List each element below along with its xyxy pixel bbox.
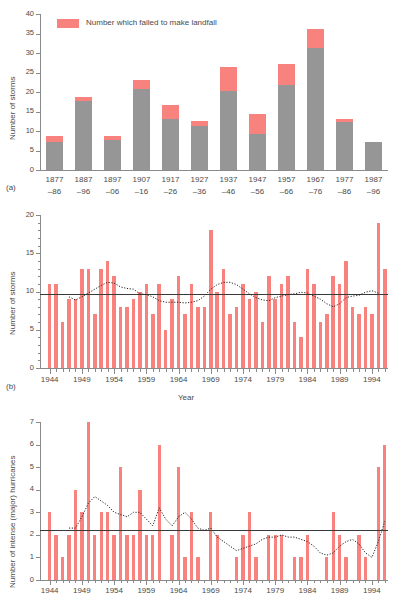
x-tick-label-line2: –86 [329,187,361,196]
x-tick-label-1949: 1949 [66,586,98,595]
y-tick-minor [38,246,40,247]
x-tick-label-1979: 1979 [259,586,291,595]
bar-year-1968 [203,307,207,368]
x-tick-year-1968 [204,580,205,583]
bar-year-1964 [177,276,181,368]
y-axis-line [40,215,41,368]
bar-year-1959 [145,284,149,368]
x-tick-year-1995 [378,580,379,583]
x-tick-year-1947 [69,368,70,372]
bar-decade-1887-96 [75,97,92,170]
x-tick-year-1996 [385,580,386,583]
bar-year-1984 [306,269,310,368]
x-tick-label-1959: 1959 [130,586,162,595]
x-tick-label-1989: 1989 [324,586,356,595]
x-tick-year-1987 [327,580,328,583]
x-tick-year-1988 [333,580,334,583]
legend-label-failed-landfall: Number which failed to make landfall [86,18,217,27]
x-tick-year-1987 [327,368,328,372]
y-tick-major [36,557,40,558]
x-tick-label-line1: 1877 [39,175,71,184]
x-tick-year-1960 [153,368,154,372]
x-tick-label-line2: –16 [126,187,158,196]
bar-year-1983 [299,557,302,580]
x-tick-label-1969: 1969 [195,586,227,595]
y-axis-line [40,422,41,580]
bar-year-1969 [209,230,213,368]
y-tick-label: 25 [6,67,34,76]
x-tick-label-line2: –96 [68,187,100,196]
bar-year-1989 [338,535,341,580]
bar-year-1954 [112,535,115,580]
x-tick-label-1994: 1994 [356,375,388,384]
bar-year-1989 [338,284,342,368]
mean-line [40,530,388,531]
x-tick-label-1994: 1994 [356,586,388,595]
y-tick-label: 0 [6,165,34,174]
y-tick-label: 0 [6,575,34,584]
x-tick-year-1990 [346,368,347,372]
y-tick-minor [38,261,40,262]
x-tick-year-1956 [127,580,128,583]
x-tick-label-1979: 1979 [259,375,291,384]
x-tick-year-1972 [230,368,231,372]
x-tick-year-1946 [63,580,64,583]
bar-year-1948 [74,490,77,580]
y-tick-major [36,112,40,113]
y-tick-major [36,445,40,446]
x-tick-label-line1: 1907 [126,175,158,184]
x-tick-major-1949 [82,368,83,374]
legend-swatch-failed-landfall [57,19,79,28]
bar-year-1969 [209,512,212,580]
x-tick-year-1988 [333,368,334,372]
y-tick-major [36,467,40,468]
panel-b-tag: (b) [6,382,16,391]
y-tick-major [36,151,40,152]
bar-year-1946 [61,322,65,368]
x-axis-line [40,170,388,171]
bar-year-1980 [280,535,283,580]
y-tick-major [36,253,40,254]
bar-year-1955 [119,467,122,580]
x-tick-major-1989 [340,580,341,585]
x-axis-line [40,580,388,581]
x-tick-year-1975 [249,368,250,372]
x-tick-year-1947 [69,580,70,583]
y-tick-major [36,368,40,369]
bar-year-1951 [93,535,96,580]
bar-year-1987 [325,557,328,580]
y-tick-major [36,73,40,74]
bar-year-1957 [132,299,136,368]
x-tick-label-line1: 1887 [68,175,100,184]
x-tick-year-1976 [256,580,257,583]
bar-year-1974 [241,535,244,580]
bar-year-1959 [145,535,148,580]
bar-year-1946 [61,557,64,580]
y-tick-major [36,422,40,423]
bar-year-1958 [138,490,141,580]
x-tick-year-1992 [359,580,360,583]
bar-year-1987 [325,314,329,368]
bar-year-1995 [377,467,380,580]
y-tick-minor [38,238,40,239]
x-tick-year-1970 [217,580,218,583]
bar-year-1965 [183,314,187,368]
x-tick-label-line1: 1917 [155,175,187,184]
x-tick-year-1957 [133,580,134,583]
bar-decade-1957-66 [278,64,295,170]
x-tick-major-1974 [243,580,244,585]
bar-year-1970 [216,535,219,580]
bar-year-1967 [196,557,199,580]
x-tick-label-1944: 1944 [34,375,66,384]
bar-year-1958 [138,292,142,369]
bar-year-1971 [222,269,226,368]
bar-year-1949 [80,512,83,580]
x-tick-year-1983 [301,580,302,583]
x-tick-label-1964: 1964 [163,375,195,384]
x-tick-year-1970 [217,368,218,372]
bar-segment-made-landfall [162,119,179,170]
x-tick-major-1954 [114,368,115,374]
x-tick-year-1971 [224,580,225,583]
bar-year-1978 [267,276,271,368]
bar-year-1944 [48,512,51,580]
